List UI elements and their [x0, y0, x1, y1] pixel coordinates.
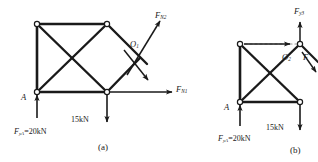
panel-a-drawing [0, 0, 190, 162]
joint-top-right-b [297, 41, 302, 46]
node-label-a: A [21, 93, 26, 102]
section-point-label-a: O1 [130, 40, 139, 50]
panel-b-drawing [190, 0, 318, 162]
caption-b: (b) [290, 146, 301, 155]
figure-root: A O1 FN2 FN1 FyA=20kN 15kN (a) [0, 0, 318, 162]
joint-top-left-b [237, 41, 242, 46]
panel-a: A O1 FN2 FN1 FyA=20kN 15kN (a) [0, 0, 190, 162]
section-point-label-b: O2 [282, 53, 291, 63]
force-label-fn1: FN1 [176, 85, 187, 95]
panel-b: A O2 Fy3 F FyA=20kN 15kN (b) [190, 0, 318, 162]
reaction-label-a: FyA=20kN [14, 128, 46, 137]
load-label-15kn-b: 15kN [266, 124, 284, 132]
joint-top-right-a [104, 21, 109, 26]
force-label-clipped-b: F [303, 53, 308, 62]
force-label-fn2: FN2 [155, 11, 166, 21]
reaction-label-b: FyA=20kN [218, 135, 250, 144]
joint-bottom-left-a [34, 89, 39, 94]
joint-bottom-mid-b [297, 99, 302, 104]
joint-top-left-a [34, 21, 39, 26]
caption-a: (a) [98, 143, 108, 152]
load-label-15kn-a: 15kN [71, 116, 89, 124]
node-label-b: A [224, 103, 229, 112]
force-label-fy3: Fy3 [294, 7, 304, 17]
joint-bottom-left-b [237, 99, 242, 104]
joint-bottom-mid-a [104, 89, 109, 94]
